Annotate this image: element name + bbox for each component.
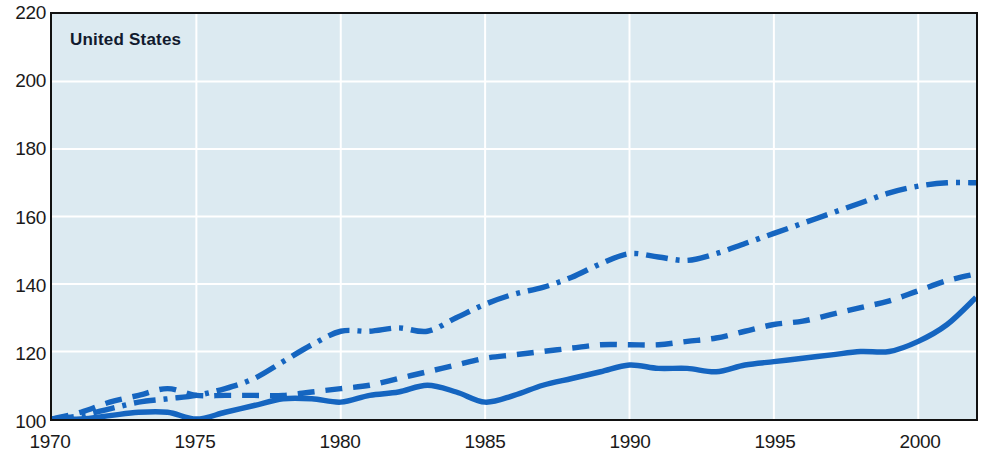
y-tick-label: 180 bbox=[2, 139, 46, 158]
plot-title: United States bbox=[70, 30, 181, 50]
y-tick-label: 220 bbox=[2, 3, 46, 22]
x-tick-label: 1995 bbox=[754, 432, 795, 451]
y-tick-label: 160 bbox=[2, 208, 46, 227]
plot-area: United States bbox=[50, 12, 978, 421]
y-tick-label: 200 bbox=[2, 71, 46, 90]
plot-svg bbox=[52, 14, 976, 419]
gridlines bbox=[52, 14, 976, 419]
line-dash-dot bbox=[52, 183, 976, 419]
x-tick-label: 1985 bbox=[464, 432, 505, 451]
chart-container: 220 200 180 160 140 120 100 1970 1975 19… bbox=[0, 0, 998, 468]
y-tick-label: 120 bbox=[2, 344, 46, 363]
y-axis-labels: 220 200 180 160 140 120 100 bbox=[0, 0, 46, 468]
x-tick-label: 1970 bbox=[29, 432, 70, 451]
y-tick-label: 100 bbox=[2, 412, 46, 431]
x-tick-label: 1990 bbox=[609, 432, 650, 451]
x-tick-label: 1980 bbox=[319, 432, 360, 451]
x-tick-label: 1975 bbox=[174, 432, 215, 451]
y-tick-label: 140 bbox=[2, 276, 46, 295]
x-tick-label: 2000 bbox=[899, 432, 940, 451]
series-lines bbox=[52, 183, 976, 419]
